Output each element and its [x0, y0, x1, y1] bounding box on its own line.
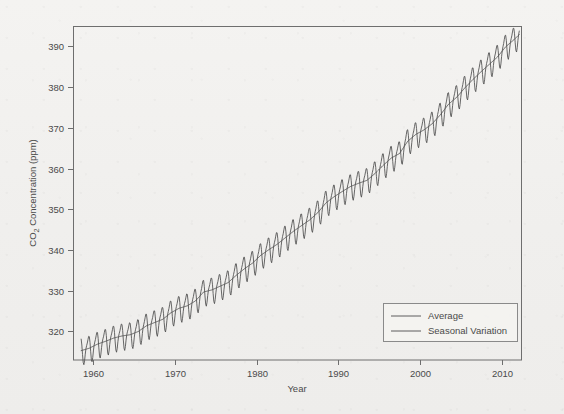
y-axis-ticks	[68, 47, 73, 332]
x-tick-label: 2010	[492, 368, 513, 379]
y-tick-label: 320	[48, 326, 64, 337]
x-axis-tick-labels: 196019701980199020002010	[83, 368, 513, 379]
chart-svg-canvas: 320330340350360370380390 196019701980199…	[0, 0, 564, 414]
x-axis-title: Year	[287, 383, 306, 394]
y-tick-label: 370	[48, 123, 64, 134]
y-tick-label: 360	[48, 164, 64, 175]
co2-concentration-chart: 320330340350360370380390 196019701980199…	[0, 0, 564, 414]
y-tick-label: 380	[48, 82, 64, 93]
legend-label-average: Average	[428, 310, 463, 321]
y-axis-title: CO2 Concentration (ppm)	[27, 139, 41, 246]
x-tick-label: 1990	[328, 368, 349, 379]
y-tick-label: 340	[48, 245, 64, 256]
x-tick-label: 1970	[165, 368, 186, 379]
y-axis-tick-labels: 320330340350360370380390	[48, 41, 64, 337]
y-tick-label: 390	[48, 41, 64, 52]
x-tick-label: 2000	[410, 368, 431, 379]
y-tick-label: 330	[48, 286, 64, 297]
y-tick-label: 350	[48, 204, 64, 215]
x-axis-ticks	[94, 360, 503, 365]
x-tick-label: 1960	[83, 368, 104, 379]
legend-label-seasonal-variation: Seasonal Variation	[428, 325, 507, 336]
chart-legend: Average Seasonal Variation	[384, 304, 518, 342]
x-tick-label: 1980	[247, 368, 268, 379]
